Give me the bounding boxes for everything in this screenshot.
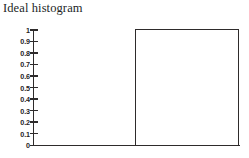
y-axis-tick-mark xyxy=(30,145,38,146)
y-axis-tick-mark xyxy=(30,29,38,30)
y-axis-tick-mark xyxy=(30,87,38,88)
y-axis-tick-label: 0.8 xyxy=(20,48,30,57)
y-axis-tick-mark xyxy=(30,52,38,53)
y-axis-tick-label: 0.5 xyxy=(20,83,30,92)
y-axis-tick-label: 0.4 xyxy=(20,95,30,104)
y-axis-tick-label: 0 xyxy=(26,141,30,150)
plot-area: 10.90.80.70.60.50.40.30.20.10 xyxy=(0,0,249,158)
y-axis-tick-label: 0.3 xyxy=(20,106,30,115)
y-axis-tick-mark xyxy=(30,41,38,42)
y-axis-tick-mark xyxy=(30,75,38,76)
figure-container: Ideal histogram 10.90.80.70.60.50.40.30.… xyxy=(0,0,249,158)
y-axis-tick-mark xyxy=(30,121,38,122)
y-axis-tick-label: 0.2 xyxy=(20,118,30,127)
y-axis-tick-label: 0.7 xyxy=(20,60,30,69)
histogram-bar xyxy=(135,29,239,145)
y-axis-tick-mark xyxy=(30,98,38,99)
y-axis-tick-label: 0.9 xyxy=(20,37,30,46)
y-axis-tick-mark xyxy=(30,110,38,111)
y-axis-tick-label: 1 xyxy=(26,25,30,34)
y-axis-tick-mark xyxy=(30,133,38,134)
y-axis-tick-label: 0.6 xyxy=(20,72,30,81)
y-axis-tick-mark xyxy=(30,64,38,65)
y-axis-tick-label: 0.1 xyxy=(20,129,30,138)
